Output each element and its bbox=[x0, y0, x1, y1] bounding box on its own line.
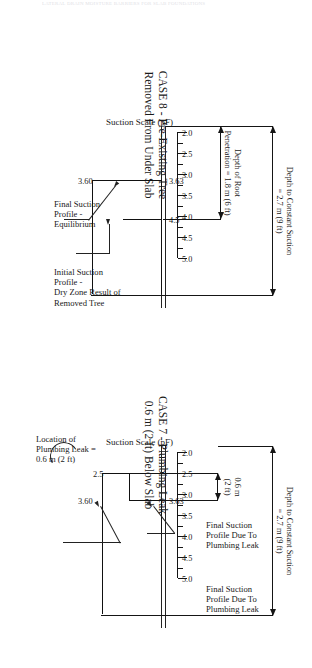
dimension-extension-line bbox=[163, 219, 221, 220]
axis-tick-label: 5.0 bbox=[182, 255, 192, 264]
axis-tick-label: 2.5 bbox=[182, 150, 192, 159]
dimension-arrow-left bbox=[270, 446, 276, 453]
dimension-extension-line bbox=[91, 295, 273, 296]
annotation-final-suction-profile-lower: Final Suction Profile Due To Plumbing Le… bbox=[206, 584, 259, 615]
annotation-leader-stub bbox=[147, 533, 175, 534]
dimension-extension-line bbox=[130, 473, 218, 474]
axis-tick-label: 4.0 bbox=[182, 213, 192, 222]
constant-suction-line bbox=[102, 500, 103, 614]
axis-tick-minor bbox=[178, 526, 183, 527]
annotation-leader-stub bbox=[64, 219, 89, 220]
final-suction-value: 3.63 bbox=[169, 497, 184, 506]
annotation-arrowhead bbox=[112, 181, 119, 188]
annotation-leader-stub bbox=[63, 542, 121, 543]
annotation-leader-line bbox=[100, 506, 121, 544]
dimension-extension-line bbox=[166, 126, 221, 127]
annotation-arrowhead bbox=[106, 219, 110, 225]
case-7-axis-caption: Suction Scale (pF) bbox=[106, 437, 173, 447]
axis-tick-minor bbox=[178, 143, 183, 144]
dimension-extension-line bbox=[221, 126, 273, 127]
constant-suction-value: 3.60 bbox=[78, 177, 93, 186]
figure-page: CASE 8 - Pre-Existing Tree Removed From … bbox=[6, 14, 306, 654]
dimension-leak-depth-label: 0.6 m (2 ft) bbox=[222, 458, 242, 516]
axis-tick-minor bbox=[178, 227, 183, 228]
constant-suction-vertical bbox=[130, 500, 163, 501]
dimension-extension-line bbox=[218, 446, 273, 447]
axis-tick-minor bbox=[178, 206, 183, 207]
initial-suction-profile-line bbox=[162, 219, 163, 289]
initial-suction-step-line bbox=[124, 219, 163, 220]
dimension-constant-suction-label: Depth to Constant Suction = 2.7 m (9 ft) bbox=[274, 146, 294, 276]
annotation-leader-line bbox=[109, 224, 110, 254]
dimension-root-penetration bbox=[220, 126, 221, 219]
dimension-extension-line bbox=[101, 615, 273, 616]
axis-tick-label: 2.5 bbox=[182, 470, 192, 479]
page-running-head: LATERAL DRAIN MOISTURE BARRIERS FOR SLAB… bbox=[42, 1, 270, 6]
annotation-leader-stub bbox=[76, 253, 110, 254]
leak-zone-profile-line bbox=[129, 473, 130, 501]
constant-suction-vertical bbox=[93, 180, 163, 181]
axis-tick-minor bbox=[178, 248, 183, 249]
dimension-extension-line bbox=[162, 500, 218, 501]
annotation-final-suction-profile-upper: Final Suction Profile Due To Plumbing Le… bbox=[206, 520, 259, 551]
dimension-arrow-right bbox=[215, 493, 221, 500]
dimension-constant-suction bbox=[272, 126, 273, 296]
axis-tick-label: 3.5 bbox=[182, 192, 192, 201]
axis-tick-minor bbox=[178, 568, 183, 569]
leak-suction-value: 2.5 bbox=[93, 470, 103, 479]
axis-tick-label: 2.0 bbox=[182, 129, 192, 138]
axis-tick-minor bbox=[178, 164, 183, 165]
axis-tick-minor bbox=[178, 463, 183, 464]
axis-tick-label: 4.0 bbox=[182, 533, 192, 542]
axis-tick-label: 5.0 bbox=[182, 575, 192, 584]
dimension-constant-suction-label: Depth to Constant Suction = 2.7 m (9 ft) bbox=[274, 466, 294, 596]
case-8-axis-caption: Suction Scale (pF) bbox=[106, 117, 173, 127]
initial-suction-value: 4.5 bbox=[169, 216, 179, 225]
axis-tick-label: 3.5 bbox=[182, 512, 192, 521]
axis-tick-label: 4.5 bbox=[182, 554, 192, 563]
axis-tick-minor bbox=[178, 547, 183, 548]
dimension-root-penetration-label: Depth of Root Penetration = 1.8 m (6 ft) bbox=[222, 118, 242, 228]
axis-tick-label: 4.5 bbox=[182, 234, 192, 243]
dimension-constant-suction bbox=[272, 446, 273, 616]
dimension-arrow-left bbox=[270, 126, 276, 133]
dimension-arrow-left bbox=[215, 473, 221, 480]
slab-surface-line bbox=[165, 126, 166, 308]
axis-tick-minor bbox=[178, 484, 183, 485]
annotation-initial-suction-profile: Initial Suction Profile - Dry Zone Resul… bbox=[54, 267, 121, 308]
constant-suction-value: 3.60 bbox=[78, 497, 93, 506]
axis-tick-label: 2.0 bbox=[182, 449, 192, 458]
case-7-diagram: CASE 7 - Plumbing Leak 0.6 m (2 ft) Belo… bbox=[6, 334, 306, 654]
case-8-diagram: CASE 8 - Pre-Existing Tree Removed From … bbox=[6, 14, 306, 334]
final-suction-value: 3.63 bbox=[169, 177, 184, 186]
leak-zone-step-line bbox=[103, 473, 130, 474]
